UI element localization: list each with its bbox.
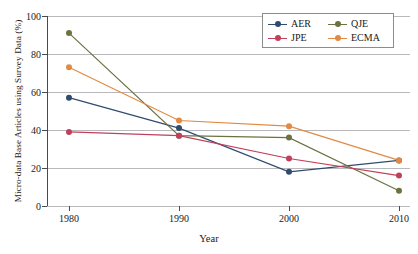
data-point-jpe xyxy=(66,129,72,135)
y-tick-label: 60 xyxy=(13,87,41,98)
legend-label-aer: AER xyxy=(291,19,311,29)
gridline xyxy=(47,206,410,207)
legend-label-ecma: ECMA xyxy=(351,33,380,43)
legend-row: AER QJE xyxy=(268,17,388,31)
legend: AER QJE JPE ECMA xyxy=(262,13,394,48)
data-point-aer xyxy=(176,125,182,131)
data-point-aer xyxy=(66,95,72,101)
x-axis-title: Year xyxy=(0,233,418,244)
x-tick-label: 2000 xyxy=(279,213,299,224)
data-point-jpe xyxy=(176,133,182,139)
x-tick-label: 1990 xyxy=(169,213,189,224)
series-line-jpe xyxy=(69,132,399,176)
data-point-aer xyxy=(286,169,292,175)
x-tick xyxy=(69,206,70,211)
legend-marker-ecma xyxy=(328,33,347,43)
legend-label-jpe: JPE xyxy=(291,33,307,43)
data-point-jpe xyxy=(286,156,292,162)
legend-item-jpe[interactable]: JPE xyxy=(268,33,328,43)
data-point-ecma xyxy=(286,123,292,129)
legend-marker-qje xyxy=(328,19,347,29)
data-point-qje xyxy=(66,30,72,36)
x-tick xyxy=(399,206,400,211)
series-line-ecma xyxy=(69,67,399,160)
data-point-ecma xyxy=(176,118,182,124)
y-tick-label: 20 xyxy=(13,163,41,174)
chart-container: Micro-data Base Articles using Survey Da… xyxy=(0,0,418,254)
legend-row: JPE ECMA xyxy=(268,31,388,45)
x-tick xyxy=(289,206,290,211)
legend-item-qje[interactable]: QJE xyxy=(328,19,388,29)
data-point-qje xyxy=(396,188,402,194)
legend-item-ecma[interactable]: ECMA xyxy=(328,33,388,43)
y-tick xyxy=(42,206,47,207)
y-tick-label: 100 xyxy=(13,11,41,22)
y-tick-label: 80 xyxy=(13,49,41,60)
legend-marker-aer xyxy=(268,19,287,29)
y-tick-label: 0 xyxy=(13,201,41,212)
y-tick-label: 40 xyxy=(13,125,41,136)
data-point-qje xyxy=(286,135,292,141)
data-point-jpe xyxy=(396,173,402,179)
legend-marker-jpe xyxy=(268,33,287,43)
x-tick-label: 2010 xyxy=(389,213,409,224)
x-tick xyxy=(179,206,180,211)
legend-label-qje: QJE xyxy=(351,19,368,29)
legend-item-aer[interactable]: AER xyxy=(268,19,328,29)
x-tick-label: 1980 xyxy=(59,213,79,224)
y-axis-title: Micro-data Base Articles using Survey Da… xyxy=(13,1,23,221)
data-point-ecma xyxy=(396,157,402,163)
data-point-ecma xyxy=(66,64,72,70)
series-line-aer xyxy=(69,98,399,172)
